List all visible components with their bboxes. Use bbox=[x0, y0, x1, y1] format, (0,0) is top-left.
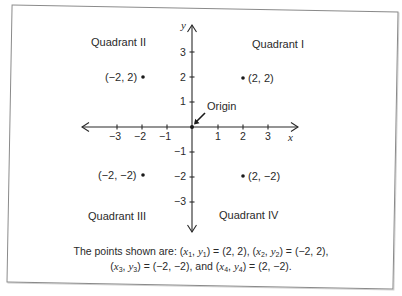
y-axis-label: y bbox=[181, 19, 186, 31]
quadrant-i-label: Quadrant I bbox=[252, 38, 304, 50]
caption-text: ) = (−2, 2), bbox=[279, 245, 328, 257]
point-q4 bbox=[241, 174, 245, 178]
x-tick-label: 1 bbox=[215, 131, 221, 142]
point-label-q3: (−2, −2) bbox=[98, 169, 137, 181]
point-label-q2: (−2, 2) bbox=[105, 71, 137, 83]
origin-label: Origin bbox=[207, 100, 236, 112]
y-tick-label: −3 bbox=[174, 196, 186, 207]
y-tick-label: 3 bbox=[180, 47, 186, 58]
quadrant-iii-label: Quadrant III bbox=[88, 210, 146, 222]
caption-text: The points shown are: ( bbox=[74, 245, 184, 257]
origin-arrow-icon bbox=[194, 113, 205, 125]
y-tick-label: 2 bbox=[180, 72, 186, 83]
x-tick-label: 3 bbox=[265, 131, 271, 142]
quadrant-ii-label: Quadrant II bbox=[91, 36, 146, 48]
point-q2 bbox=[141, 75, 145, 79]
caption-text: ) = (2, 2), ( bbox=[207, 245, 256, 257]
y-tick-label: 1 bbox=[180, 96, 186, 107]
caption-text: ) = (2, −2). bbox=[243, 260, 292, 272]
x-tick-label: −2 bbox=[134, 131, 146, 142]
point-q1 bbox=[241, 76, 245, 80]
point-label-q4: (2, −2) bbox=[248, 170, 280, 182]
point-q3 bbox=[141, 173, 145, 177]
x-tick-label: −3 bbox=[109, 131, 121, 142]
caption-text: ) = (−2, −2), and ( bbox=[137, 260, 219, 272]
x-axis-label: x bbox=[288, 131, 293, 143]
origin-dot bbox=[190, 125, 194, 129]
x-tick-label: 2 bbox=[240, 131, 246, 142]
y-tick-label: −2 bbox=[174, 171, 186, 182]
quadrant-iv-label: Quadrant IV bbox=[219, 209, 278, 221]
coordinate-plane: y x −3 −2 −1 1 2 3 3 2 1 −1 −2 −3 Origin… bbox=[0, 0, 402, 296]
caption-line-2: (x3, y3) = (−2, −2), and (x4, y4) = (2, … bbox=[0, 259, 402, 277]
point-label-q1: (2, 2) bbox=[248, 72, 274, 84]
x-tick-label: −1 bbox=[159, 131, 171, 142]
y-tick-label: −1 bbox=[174, 146, 186, 157]
